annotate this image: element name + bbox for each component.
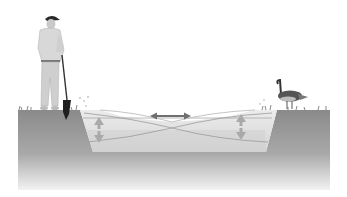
splash-dots bbox=[79, 96, 264, 107]
person-with-probe-icon bbox=[38, 16, 71, 120]
pond-diagram bbox=[0, 0, 347, 197]
goose-icon bbox=[277, 80, 308, 109]
horizontal-arrow-icon bbox=[150, 113, 191, 120]
diagram-canvas bbox=[0, 0, 347, 197]
grass-right bbox=[262, 105, 326, 110]
